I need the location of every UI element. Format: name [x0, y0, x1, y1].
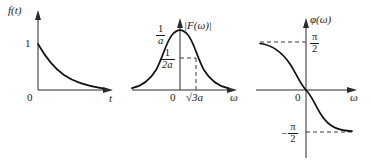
peak-denominator: a [156, 35, 165, 47]
origin-label: 0 [27, 92, 33, 103]
half-value-fraction: 1 2a [160, 48, 175, 70]
y-axis-arrowhead [177, 18, 183, 28]
upper-asymptote-label: π 2 [310, 32, 319, 54]
upper-numerator: π [310, 32, 319, 43]
y-tick-label-one: 1 [25, 38, 31, 49]
x-axis-label: ω [350, 92, 358, 103]
y-axis-arrowhead [303, 18, 309, 28]
origin-label: 0 [295, 92, 301, 103]
lower-numerator: π [288, 122, 297, 133]
panel-time-domain: f(t) 1 0 t [0, 0, 124, 166]
origin-label: 0 [170, 92, 176, 103]
x-tick-label-sqrt3a: √3a [186, 92, 203, 103]
lower-fraction: π 2 [288, 122, 297, 144]
panel-phase-spectrum: φ(ω) π 2 0 − π 2 ω [248, 0, 371, 166]
peak-numerator: 1 [156, 24, 165, 35]
y-axis-arrowhead [35, 10, 41, 20]
time-domain-plot [0, 0, 124, 166]
x-axis-label: ω [230, 92, 238, 103]
half-numerator: 1 [160, 48, 175, 59]
fourier-transform-figure: f(t) 1 0 t 1 a |F(ω)| 1 2a 0 [0, 0, 371, 166]
lower-sign: − [281, 127, 287, 139]
half-denominator: 2a [160, 59, 175, 71]
y-axis-label: |F(ω)| [184, 20, 212, 31]
panel-magnitude-spectrum: 1 a |F(ω)| 1 2a 0 √3a ω [124, 0, 248, 166]
y-axis-label: φ(ω) [310, 14, 331, 25]
exponential-decay-curve [38, 44, 104, 89]
y-axis-label: f(t) [8, 5, 21, 16]
upper-denominator: 2 [310, 43, 319, 55]
lower-denominator: 2 [288, 133, 297, 145]
peak-value-fraction: 1 a [156, 24, 165, 46]
lower-asymptote-label: − π 2 [281, 122, 298, 144]
x-axis-label: t [109, 93, 112, 104]
